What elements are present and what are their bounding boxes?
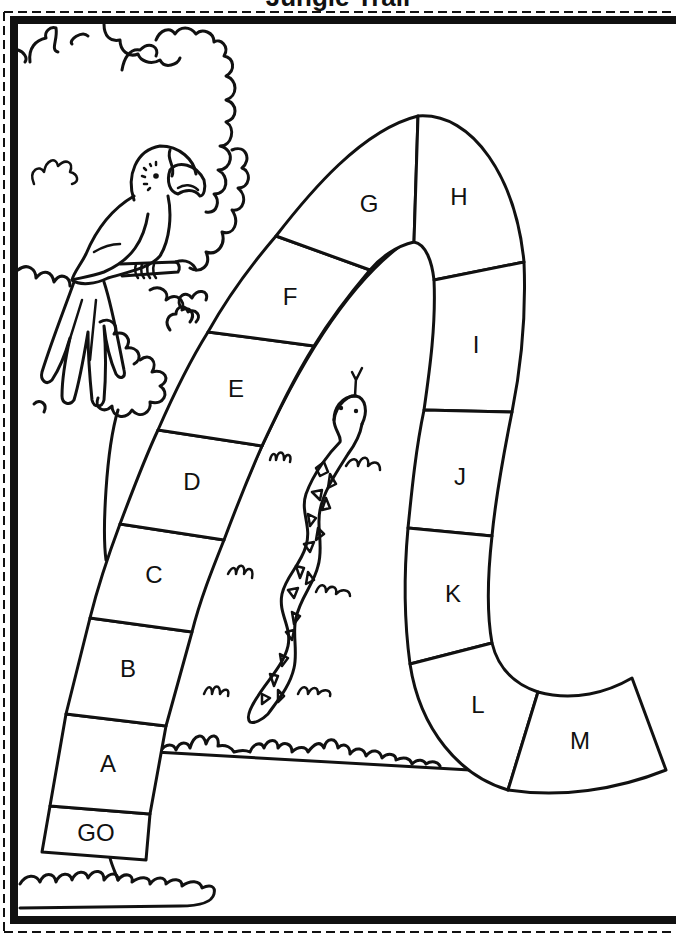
space-label-j: J [454,463,466,490]
space-label-f: F [283,283,298,310]
space-h[interactable] [414,116,524,280]
space-label-d: D [183,468,200,495]
space-label-i: I [473,331,480,358]
space-label-b: B [120,655,136,682]
space-label-k: K [445,580,461,607]
space-label-e: E [228,375,244,402]
space-label-m: M [570,727,590,754]
space-label-l: L [471,691,484,718]
space-label-c: C [145,561,162,588]
space-label-g: G [360,190,379,217]
game-board: GO A B C D E F G H I J K L M [0,0,676,936]
space-label-go: GO [77,819,114,846]
space-label-h: H [450,183,467,210]
space-label-a: A [100,750,116,777]
